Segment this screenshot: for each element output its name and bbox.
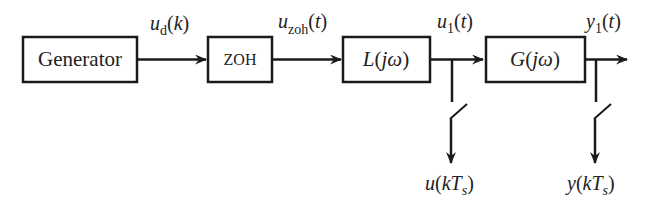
signal-y1-label: y1(t) [584,10,621,36]
signal-u1-label: u1(t) [437,10,473,36]
l-label: L(jω) [362,47,409,71]
g-label: G(jω) [510,47,560,71]
signal-y-sampled-label: y(kTs) [565,172,615,198]
g-block: G(jω) [486,37,585,82]
u-sampler-switch [450,104,467,119]
u-sampler-branch [450,59,467,163]
zoh-block: ZOH [208,37,272,82]
block-diagram: Generator ud(k) ZOH uzoh(t) L(jω) u1(t) … [0,0,648,201]
l-block: L(jω) [343,37,430,82]
signal-u-sampled-label: u(kTs) [425,172,474,198]
generator-block: Generator [23,37,137,82]
y-sampler-branch [594,59,611,163]
zoh-label: ZOH [224,51,257,68]
y-sampler-switch [594,104,611,119]
generator-label: Generator [38,47,122,71]
signal-ud-label: ud(k) [150,12,189,38]
signal-uzoh-label: uzoh(t) [278,10,327,37]
